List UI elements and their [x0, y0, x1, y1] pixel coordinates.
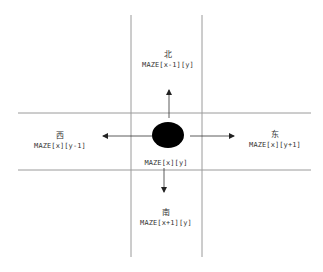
expr-north: MAZE[x-1][y] [142, 60, 194, 70]
direction-west: 西 [34, 131, 86, 141]
label-south: 南 MAZE[x+1][y] [140, 208, 192, 228]
current-cell-node [152, 122, 184, 148]
direction-south: 南 [140, 208, 192, 218]
label-north: 北 MAZE[x-1][y] [142, 50, 194, 70]
expr-center: MAZE[x][y] [144, 158, 187, 168]
expr-east: MAZE[x][y+1] [249, 140, 301, 150]
direction-north: 北 [142, 50, 194, 60]
expr-west: MAZE[x][y-1] [34, 141, 86, 151]
label-west: 西 MAZE[x][y-1] [34, 131, 86, 151]
label-center: MAZE[x][y] [144, 158, 187, 168]
direction-east: 东 [249, 130, 301, 140]
expr-south: MAZE[x+1][y] [140, 218, 192, 228]
label-east: 东 MAZE[x][y+1] [249, 130, 301, 150]
